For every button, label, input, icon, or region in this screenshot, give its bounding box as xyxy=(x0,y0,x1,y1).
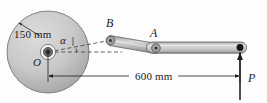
angle-label-alpha: α xyxy=(60,35,66,46)
diagram-canvas xyxy=(0,0,267,103)
force-label-P: P xyxy=(248,72,255,84)
radius-dimension-label: 150 mm xyxy=(14,29,52,40)
load-point-marker xyxy=(237,44,244,51)
point-label-A: A xyxy=(150,27,157,39)
pin-joint-A xyxy=(152,44,161,53)
crank-pin-B-joint xyxy=(106,36,115,45)
span-dimension-label: 600 mm xyxy=(133,71,175,82)
horizontal-bar xyxy=(146,42,246,53)
point-label-B: B xyxy=(106,17,113,29)
center-label-O: O xyxy=(33,57,41,68)
mechanism-diagram: 150 mm α O B A P 600 mm xyxy=(0,0,267,103)
